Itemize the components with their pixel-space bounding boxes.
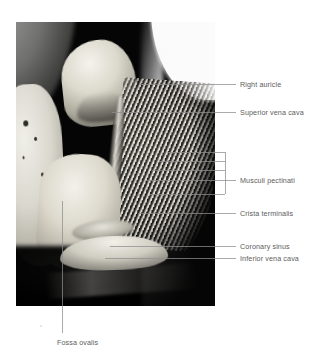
label-coronary-sinus: Coronary sinus — [240, 242, 290, 251]
label-musculi-pectinati: Musculi pectinati — [240, 176, 295, 185]
specimen-photograph — [16, 22, 215, 306]
dust-speck — [40, 325, 42, 327]
label-crista-terminalis: Crista terminalis — [240, 209, 293, 218]
label-fossa-ovalis: Fossa ovalis — [57, 338, 98, 347]
anatomy-plate: Right auricle Superior vena cava Musculi… — [0, 0, 328, 362]
label-right-auricle: Right auricle — [240, 80, 281, 89]
label-superior-vena-cava: Superior vena cava — [240, 108, 304, 117]
label-inferior-vena-cava: Inferior vena cava — [240, 254, 299, 263]
